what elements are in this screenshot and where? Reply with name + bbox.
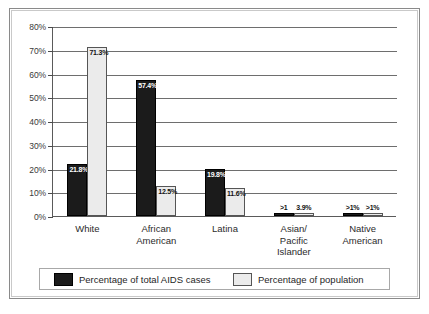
bar-value-label: 19.8%: [207, 171, 226, 178]
bar-value-label: 71.3%: [89, 49, 108, 56]
bar-group: 21.8%71.3%: [53, 26, 122, 216]
legend-item: Percentage of total AIDS cases: [54, 273, 211, 286]
bar-group: >1%>1%: [328, 26, 397, 216]
bar-value-label: >1: [274, 204, 294, 211]
y-axis-tick-label: 40%: [29, 118, 46, 127]
bar-value-label: 57.4%: [138, 82, 157, 89]
chart-legend: Percentage of total AIDS casesPercentage…: [39, 268, 390, 290]
bar-group: >13.9%: [259, 26, 328, 216]
plot-area: 0%10%20%30%40%50%60%70%80% 21.8%71.3%57.…: [52, 27, 396, 217]
dark-swatch: [54, 273, 73, 286]
category-label: NativeAmerican: [308, 223, 418, 246]
bar-value-label: 11.6%: [227, 190, 245, 197]
y-axis-tick-label: 10%: [29, 189, 46, 198]
bar-group: 57.4%12.5%: [122, 26, 191, 216]
y-axis-tick-label: 20%: [29, 165, 46, 174]
y-axis-tick-label: 50%: [29, 94, 46, 103]
y-axis-tick-label: 30%: [29, 142, 46, 151]
legend-label: Percentage of population: [258, 275, 364, 285]
y-axis-tick-label: 0%: [34, 213, 46, 222]
bar-population: [363, 213, 383, 216]
y-axis-tick-label: 80%: [29, 23, 46, 32]
bar-aids-cases: [274, 213, 294, 216]
bar-value-label: >1%: [363, 204, 383, 211]
category-label-line: Native: [308, 223, 418, 235]
bar-group: 19.8%11.6%: [191, 26, 260, 216]
bar-value-label: 12.5%: [158, 188, 177, 195]
y-axis-tick-label: 60%: [29, 70, 46, 79]
light-swatch: [233, 273, 252, 286]
bar-value-label: 3.9%: [294, 204, 314, 211]
category-label-line: Islander: [239, 246, 349, 258]
bar-value-label: >1%: [343, 204, 363, 211]
bar-aids-cases: [136, 80, 156, 216]
legend-label: Percentage of total AIDS cases: [79, 275, 211, 285]
bar-aids-cases: [343, 213, 363, 216]
aids-cases-vs-population-bar-chart: 0%10%20%30%40%50%60%70%80% 21.8%71.3%57.…: [0, 0, 429, 314]
category-label-line: American: [308, 235, 418, 247]
y-axis-tick: [48, 217, 53, 218]
legend-item: Percentage of population: [233, 273, 364, 286]
category-label-line: American: [101, 235, 211, 247]
bar-value-label: 21.8%: [69, 166, 88, 173]
bar-population: [294, 213, 314, 216]
bar-population: [87, 47, 107, 216]
y-axis-tick-label: 70%: [29, 47, 46, 56]
